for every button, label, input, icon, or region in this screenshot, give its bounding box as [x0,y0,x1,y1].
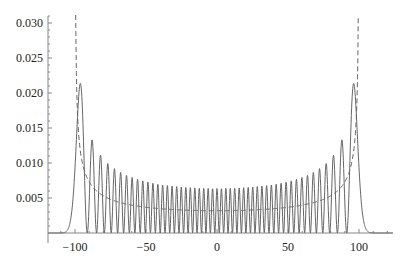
y-tick-label: 0.020 [16,86,43,100]
y-tick-label: 0.005 [16,191,43,205]
y-tick-label: 0.025 [16,51,43,65]
x-tick-label: 0 [214,240,220,254]
x-tick-labels: −100−50050100 [63,240,368,254]
y-tick-label: 0.010 [16,156,43,170]
y-tick-label: 0.030 [16,16,43,30]
x-tick-label: 50 [282,240,294,254]
y-tick-label: 0.015 [16,121,43,135]
x-tick-label: −50 [137,240,156,254]
x-tick-label: −100 [63,240,88,254]
y-tick-labels: 0.0050.0100.0150.0200.0250.030 [16,16,43,205]
x-tick-label: 100 [350,240,368,254]
classical-density-dashed-line [76,15,359,211]
chart: 0.0050.0100.0150.0200.0250.030 −100−5005… [0,0,413,261]
quantum-density-solid-line [48,83,393,233]
